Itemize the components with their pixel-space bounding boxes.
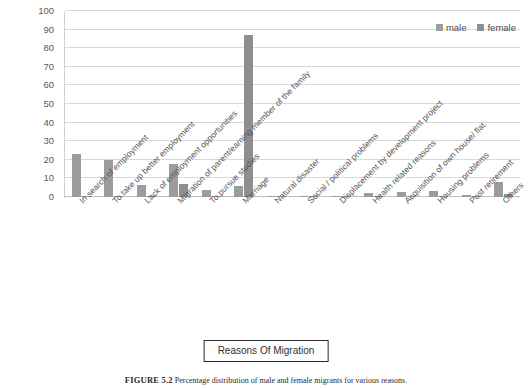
legend-item-female[interactable]: female (477, 22, 516, 33)
y-axis-tick-label: 40 (43, 118, 54, 128)
y-axis-tick-label: 60 (43, 81, 54, 91)
x-axis-title-box: Reasons Of Migration (204, 340, 329, 362)
bar-male[interactable] (72, 154, 81, 197)
y-axis-tick-label: 80 (43, 43, 54, 53)
legend-swatch-icon (436, 24, 443, 31)
y-axis-tick-label: 30 (43, 136, 54, 146)
y-axis-labels: 0102030405060708090100 (0, 11, 60, 197)
y-axis-tick-label: 20 (43, 155, 54, 165)
figure-container: 0102030405060708090100 malefemale In sea… (0, 0, 532, 388)
y-axis-tick-label: 10 (43, 174, 54, 184)
x-axis-labels: In search of employmentTo take up better… (65, 199, 520, 324)
bar-group[interactable] (65, 11, 98, 197)
legend-label: male (446, 22, 467, 33)
legend-label: female (487, 22, 516, 33)
y-axis-tick-label: 50 (43, 99, 54, 109)
y-axis-tick-label: 100 (38, 6, 54, 16)
plot-area (65, 11, 520, 197)
legend-item-male[interactable]: male (436, 22, 467, 33)
bar-series-container (65, 11, 520, 197)
y-axis-tick-label: 90 (43, 25, 54, 35)
figure-caption-text: Percentage distribution of male and fema… (175, 376, 407, 385)
figure-caption: FIGURE 5.2 Percentage distribution of ma… (0, 375, 532, 385)
y-axis-tick-label: 0 (49, 192, 54, 202)
y-axis-tick-label: 70 (43, 62, 54, 72)
chart-legend: malefemale (436, 22, 516, 33)
legend-swatch-icon (477, 24, 484, 31)
figure-number: FIGURE 5.2 (125, 375, 173, 385)
chart-title-cropped (0, 0, 532, 5)
